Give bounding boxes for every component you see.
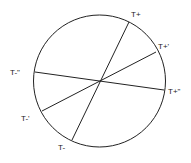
label-t-minus-double-prime: T-" [10,68,20,77]
diameter-t-plus-double-prime-t-minus-double-prime [35,72,164,90]
label-t-plus-double-prime: T+" [168,87,181,96]
label-t-minus: T- [58,143,65,152]
diameter-t-plus-prime-t-minus-prime [42,52,156,111]
label-t-plus-prime: T+' [158,42,170,51]
label-t-minus-prime: T-' [21,114,30,123]
label-t-plus: T+ [131,10,141,19]
diagram-canvas: T+ T- T+' T-' T+" T-" [0,0,191,163]
